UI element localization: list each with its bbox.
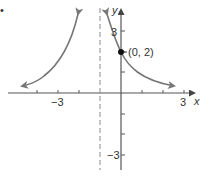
- y-axis: [121, 10, 125, 170]
- x-axis: [8, 90, 194, 93]
- y-tick-label-3: 3: [111, 26, 117, 38]
- x-tick-label-3: 3: [180, 96, 186, 108]
- point-label: (0, 2): [128, 46, 154, 58]
- y-axis-label: y: [111, 4, 119, 16]
- left-branch-curve: [22, 14, 78, 86]
- x-axis-label: x: [193, 95, 200, 107]
- bullet: •: [0, 4, 4, 16]
- point-0-2: [118, 49, 124, 55]
- y-tick-label-neg3: −3: [107, 149, 120, 161]
- x-tick-label-neg3: −3: [51, 96, 64, 108]
- graph: • y x −3 3 3 −3 (0, 2): [0, 0, 209, 182]
